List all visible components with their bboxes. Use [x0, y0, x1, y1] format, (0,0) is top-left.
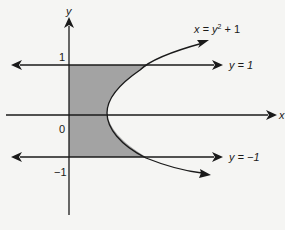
origin-label: 0	[59, 123, 65, 135]
curve-equation-label: x = y2 + 1	[193, 23, 240, 35]
line-y1-label: y = 1	[228, 59, 253, 71]
tick-label-1: 1	[59, 51, 65, 63]
parabola-lower-arrow-icon	[199, 169, 211, 178]
curve-eq-rhs: + 1	[221, 23, 240, 35]
diagram-canvas: y x 1 0 −1 x = y2 + 1 y = 1 y = −1	[0, 0, 285, 230]
region-diagram: y x 1 0 −1 x = y2 + 1 y = 1 y = −1	[0, 0, 285, 230]
shaded-region	[69, 65, 148, 157]
curve-eq-lhs: x = y	[193, 23, 219, 35]
line-yneg1-label: y = −1	[228, 151, 260, 163]
y-axis-label: y	[65, 5, 73, 17]
x-axis-label: x	[278, 109, 285, 121]
tick-label-neg1: −1	[54, 166, 67, 178]
